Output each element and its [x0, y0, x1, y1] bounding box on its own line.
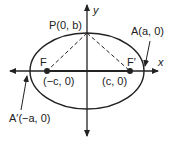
focus-fprime-dot: [127, 68, 133, 74]
x-axis-label: x: [157, 56, 164, 68]
focus-f-name: F: [40, 56, 47, 68]
point-a-label: A(a, 0): [131, 25, 164, 37]
pointer-arrow-a-prime: [21, 76, 27, 110]
dashed-line-p-f: [47, 33, 87, 71]
focus-f-dot: [44, 68, 50, 74]
point-p-label: P(0, b): [49, 19, 82, 31]
y-axis-label: y: [92, 4, 100, 16]
pointer-arrow-a: [145, 41, 150, 66]
ellipse-diagram: y x P(0, b) A(a, 0) F (−c, 0) F′ (c, 0) …: [0, 0, 172, 142]
focus-fprime-coord: (c, 0): [102, 75, 127, 87]
focus-f-coord: (−c, 0): [43, 75, 74, 87]
dashed-line-p-fprime: [87, 33, 130, 71]
point-a-prime-label: A′(−a, 0): [9, 112, 51, 124]
focus-fprime-name: F′: [127, 56, 136, 68]
